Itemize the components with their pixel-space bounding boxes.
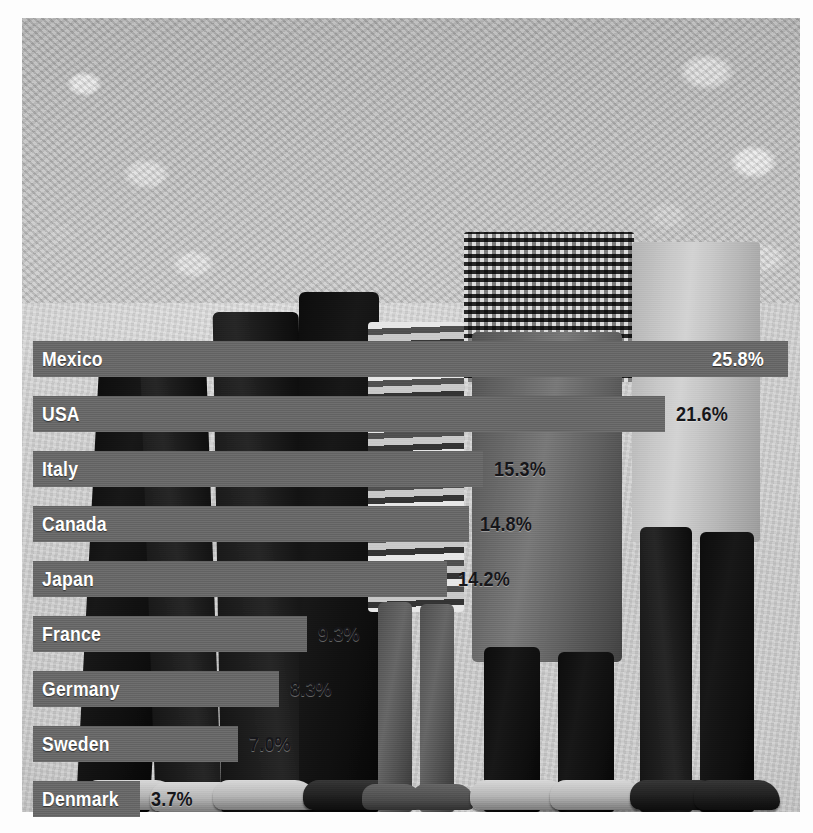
bar: [33, 341, 788, 377]
bar-category-label: Germany: [42, 677, 120, 701]
bar-row: France9.3%: [33, 616, 793, 652]
bar-category-label: Denmark: [42, 787, 119, 811]
bar-category-label: Japan: [42, 567, 94, 591]
bar-value-label: 25.8%: [712, 347, 764, 371]
bar-value-label: 14.2%: [458, 567, 510, 591]
bar-category-label: USA: [42, 402, 80, 426]
bar-row: Canada14.8%: [33, 506, 793, 542]
bar-category-label: France: [42, 622, 101, 646]
poster-canvas: Mexico25.8%USA21.6%Italy15.3%Canada14.8%…: [0, 0, 813, 833]
bar-category-label: Mexico: [42, 347, 103, 371]
bar-value-label: 21.6%: [676, 402, 728, 426]
bar: [33, 451, 483, 487]
bar-row: Sweden7.0%: [33, 726, 793, 762]
bar-value-label: 8.3%: [290, 677, 332, 701]
bar-row: Italy15.3%: [33, 451, 793, 487]
bar-row: Denmark3.7%: [33, 781, 793, 817]
bar-category-label: Italy: [42, 457, 78, 481]
bar: [33, 396, 665, 432]
bar-category-label: Canada: [42, 512, 107, 536]
bar-row: Germany8.3%: [33, 671, 793, 707]
bar-row: Mexico25.8%: [33, 341, 793, 377]
bar-row: USA21.6%: [33, 396, 793, 432]
bar-row: Japan14.2%: [33, 561, 793, 597]
bar-value-label: 7.0%: [249, 732, 291, 756]
bar-value-label: 9.3%: [318, 622, 360, 646]
bar: [33, 561, 447, 597]
bar-chart: Mexico25.8%USA21.6%Italy15.3%Canada14.8%…: [0, 0, 813, 833]
bar-category-label: Sweden: [42, 732, 110, 756]
bar-value-label: 14.8%: [480, 512, 532, 536]
bar-value-label: 15.3%: [494, 457, 546, 481]
bar-value-label: 3.7%: [151, 787, 193, 811]
